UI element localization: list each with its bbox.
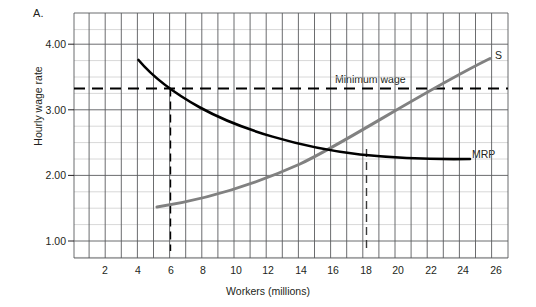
supply-curve [157, 59, 490, 208]
figure-panel-a: A. Hourly wage rate Workers (millions) 4… [0, 0, 536, 307]
y-axis-ticks [68, 44, 74, 241]
chart-canvas [0, 0, 536, 307]
grid-vertical [74, 13, 508, 258]
